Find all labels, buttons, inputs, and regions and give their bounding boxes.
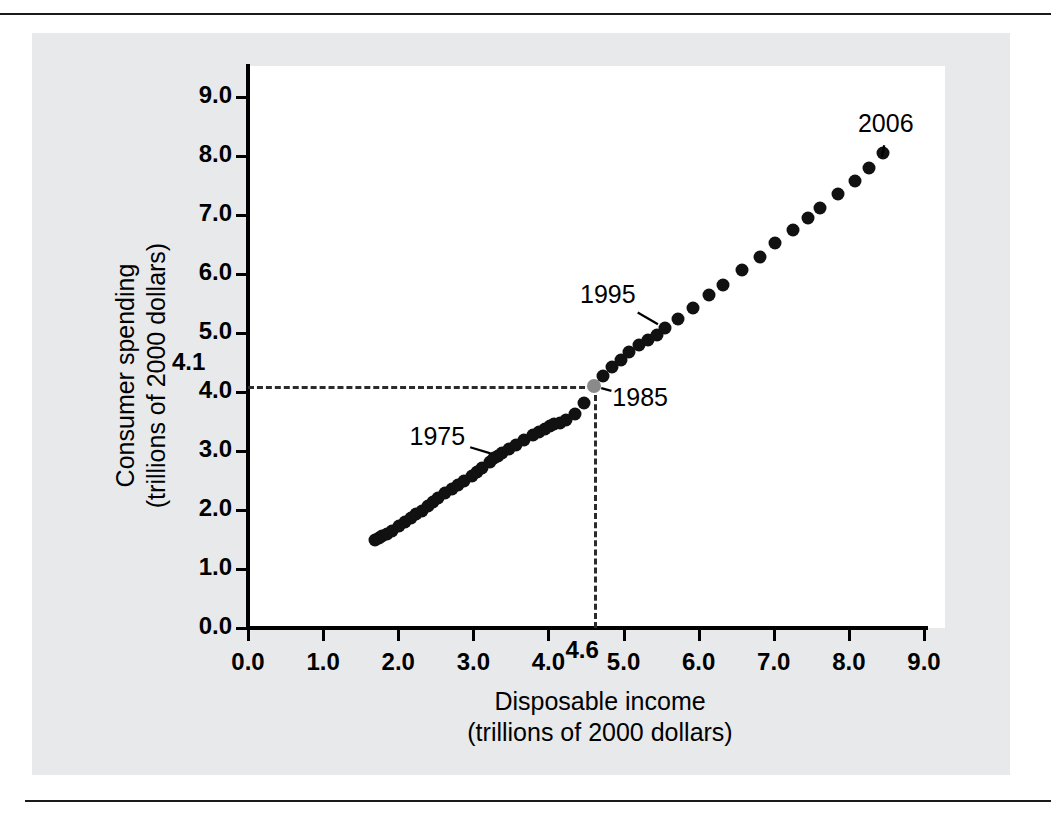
annotation-label-1985: 1985 bbox=[612, 383, 668, 412]
annotation-label-2006: 2006 bbox=[858, 109, 914, 138]
annotation-label-1995: 1995 bbox=[580, 280, 636, 309]
annotation-label-1975: 1975 bbox=[410, 422, 466, 451]
